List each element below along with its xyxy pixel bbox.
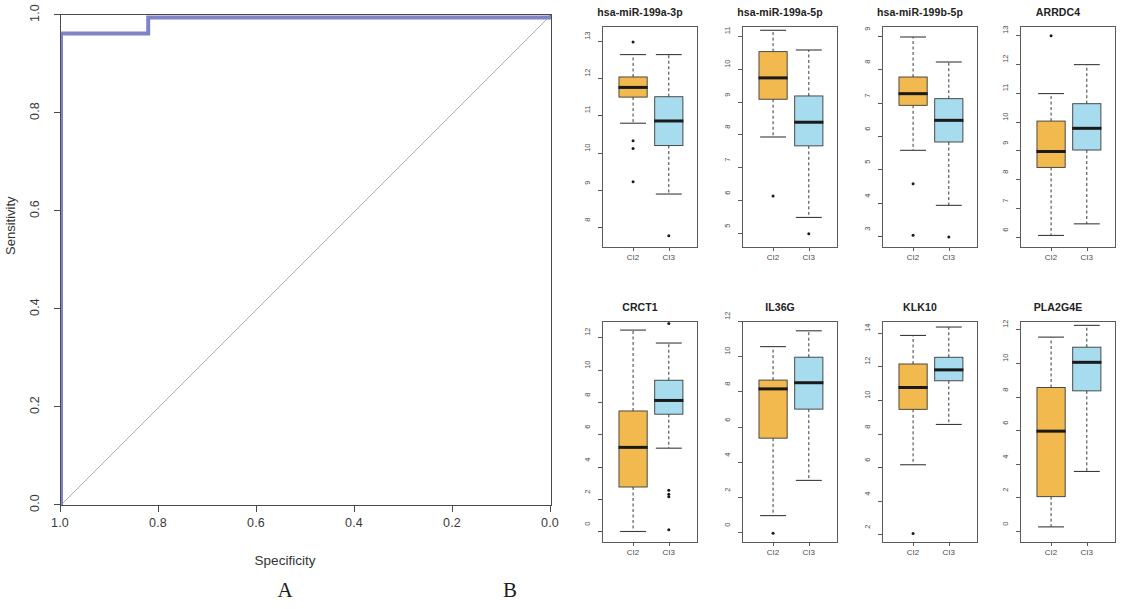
boxplot-x-tick-label: CI3 xyxy=(654,253,684,262)
boxplot-y-tick-label: 8 xyxy=(863,60,872,78)
boxplot-y-tick-label: 13 xyxy=(583,31,592,49)
boxplot-frame xyxy=(1020,321,1116,543)
boxplot-panel-hsa-miR-199a-3p: hsa-miR-199a-3p1312111098CI2CI3 xyxy=(570,0,710,295)
boxplot-box-CI2 xyxy=(618,330,647,531)
x-tick-label: 0.8 xyxy=(142,516,174,530)
x-tick-label: 0.2 xyxy=(436,516,468,530)
boxplot-box-CI3 xyxy=(934,62,963,239)
boxplot-y-tick-label: 5 xyxy=(863,160,872,178)
boxplot-y-tick-label: 9 xyxy=(863,27,872,45)
boxplot-y-tick-label: 12 xyxy=(863,357,872,375)
boxplot-y-tick-mark xyxy=(878,136,882,137)
boxplot-x-tick-mark xyxy=(1087,247,1088,251)
boxplot-y-tick-label: 6 xyxy=(863,458,872,476)
boxplot-x-tick-mark xyxy=(809,542,810,546)
boxplot-y-tick-mark xyxy=(738,356,742,357)
boxplot-panel-IL36G: IL36G121086420CI2CI3 xyxy=(710,295,850,590)
y-axis-label-sensitivity: Sensitivity xyxy=(3,196,18,255)
roc-curve-svg xyxy=(61,15,551,505)
boxplot-y-tick-mark xyxy=(878,434,882,435)
boxplot-title: hsa-miR-199b-5p xyxy=(850,6,990,18)
boxplot-y-tick-label: 0 xyxy=(723,523,732,541)
boxplot-y-tick-label: 10 xyxy=(1001,353,1010,371)
boxplot-x-tick-mark xyxy=(669,542,670,546)
boxplot-y-tick-label: 6 xyxy=(1001,228,1010,246)
panel-a-roc: 1.00.80.60.40.20.00.00.20.40.60.81.0 Sen… xyxy=(0,0,570,609)
boxplot-box-CI3 xyxy=(1072,325,1101,471)
boxplot-y-tick-mark xyxy=(738,321,742,322)
boxplot-svg xyxy=(603,27,697,247)
boxplot-box-CI3 xyxy=(934,327,963,424)
boxplot-y-tick-mark xyxy=(1016,150,1020,151)
boxplot-y-tick-mark xyxy=(738,167,742,168)
boxplot-box-CI3 xyxy=(654,322,683,531)
boxplot-x-tick-label: CI3 xyxy=(794,253,824,262)
panel-label-b: B xyxy=(470,578,550,603)
boxplot-y-tick-mark xyxy=(1016,237,1020,238)
boxplot-y-tick-mark xyxy=(1016,497,1020,498)
boxplot-title: hsa-miR-199a-3p xyxy=(570,6,710,18)
boxplot-y-tick-mark xyxy=(1016,397,1020,398)
boxplot-box-CI2 xyxy=(1036,34,1065,235)
boxplot-box-CI2 xyxy=(898,37,927,237)
boxplot-y-tick-label: 4 xyxy=(723,452,732,470)
boxplot-y-tick-mark xyxy=(738,134,742,135)
boxplot-x-tick-label: CI2 xyxy=(898,253,928,262)
boxplot-y-tick-label: 11 xyxy=(1001,83,1010,101)
boxplot-x-tick-label: CI3 xyxy=(1072,253,1102,262)
boxplot-frame xyxy=(602,26,698,248)
boxplot-box-CI3 xyxy=(654,55,683,238)
roc-plot-frame xyxy=(60,14,552,506)
x-tick-label: 0.0 xyxy=(534,516,566,530)
boxplot-panel-PLA2G4E: PLA2G4E121086420CI2CI3 xyxy=(988,295,1128,590)
x-axis-label-specificity: Specificity xyxy=(0,553,570,568)
boxplot-y-tick-label: 12 xyxy=(723,312,732,330)
boxplot-y-tick-mark xyxy=(598,153,602,154)
boxplot-y-tick-label: 4 xyxy=(863,193,872,211)
boxplot-y-tick-mark xyxy=(738,233,742,234)
x-tick-mark xyxy=(60,506,61,512)
boxplot-y-tick-mark xyxy=(1016,329,1020,330)
boxplot-y-tick-label: 2 xyxy=(1001,488,1010,506)
boxplot-svg xyxy=(603,322,697,542)
boxplot-y-tick-mark xyxy=(1016,64,1020,65)
boxplot-y-tick-label: 2 xyxy=(863,525,872,543)
boxplot-y-tick-label: 11 xyxy=(583,106,592,124)
x-tick-mark xyxy=(158,506,159,512)
boxplot-y-tick-mark xyxy=(598,227,602,228)
boxplot-svg xyxy=(883,322,977,542)
boxplot-y-tick-mark xyxy=(738,36,742,37)
boxplot-frame xyxy=(742,321,838,543)
boxplot-box-CI3 xyxy=(794,50,823,235)
boxplot-x-tick-label: CI3 xyxy=(794,548,824,557)
boxplot-y-tick-mark xyxy=(1016,464,1020,465)
boxplot-svg xyxy=(883,27,977,247)
x-tick-label: 0.4 xyxy=(338,516,370,530)
boxplot-y-tick-label: 4 xyxy=(863,491,872,509)
boxplot-y-tick-label: 8 xyxy=(723,382,732,400)
boxplot-y-tick-mark xyxy=(598,499,602,500)
boxplot-x-tick-mark xyxy=(633,542,634,546)
boxplot-y-tick-mark xyxy=(598,41,602,42)
boxplot-y-tick-label: 0 xyxy=(1001,521,1010,539)
boxplot-y-tick-mark xyxy=(878,36,882,37)
boxplot-box-CI2 xyxy=(1036,337,1065,527)
boxplot-svg xyxy=(1021,322,1115,542)
boxplot-y-tick-mark xyxy=(878,203,882,204)
boxplot-y-tick-mark xyxy=(738,532,742,533)
boxplot-box-CI3 xyxy=(794,331,823,481)
y-tick-mark xyxy=(54,14,60,15)
boxplot-x-tick-label: CI2 xyxy=(1036,253,1066,262)
boxplot-y-tick-label: 5 xyxy=(723,223,732,241)
boxplot-frame xyxy=(742,26,838,248)
boxplot-title: CRCT1 xyxy=(570,301,710,313)
boxplot-y-tick-mark xyxy=(598,531,602,532)
boxplot-y-tick-mark xyxy=(878,467,882,468)
boxplot-frame xyxy=(882,321,978,543)
boxplot-y-tick-label: 2 xyxy=(583,489,592,507)
boxplot-svg xyxy=(743,322,837,542)
boxplot-frame xyxy=(1020,26,1116,248)
boxplot-title: KLK10 xyxy=(850,301,990,313)
boxplot-panel-CRCT1: CRCT1121086420CI2CI3 xyxy=(570,295,710,590)
boxplot-box-CI2 xyxy=(898,335,927,535)
